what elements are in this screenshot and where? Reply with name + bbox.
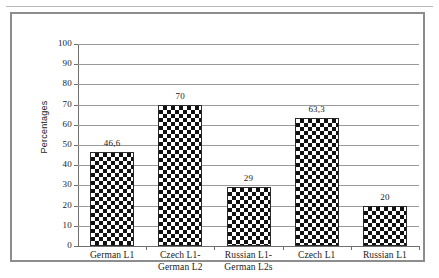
- y-axis-tick: [74, 84, 78, 85]
- y-axis-tick: [74, 125, 78, 126]
- x-axis-line: [78, 246, 420, 247]
- bar-slot: 46,6: [90, 44, 134, 246]
- bar-value-label: 70: [142, 92, 218, 101]
- bar[interactable]: [90, 152, 134, 246]
- bar-value-label: 29: [211, 174, 287, 183]
- y-axis-tick-labels: 1009080706050403020100: [48, 14, 72, 278]
- y-axis-tick: [74, 206, 78, 207]
- bar-value-label: 46,6: [74, 139, 150, 148]
- y-axis-tick: [74, 105, 78, 106]
- bar[interactable]: [158, 105, 202, 246]
- y-axis-tick: [74, 226, 78, 227]
- plot-area: 46,6702963,320: [78, 44, 419, 246]
- x-axis-category-label: Russian L1: [343, 250, 427, 262]
- y-axis-tick: [74, 246, 78, 247]
- y-axis-tick: [74, 145, 78, 146]
- y-axis-tick-label: 50: [50, 140, 72, 149]
- x-axis-tick: [419, 246, 420, 250]
- y-axis-tick-label: 0: [50, 241, 72, 250]
- bar-slot: 20: [363, 44, 407, 246]
- y-axis-tick-label: 60: [50, 120, 72, 129]
- y-axis-tick: [74, 165, 78, 166]
- bar[interactable]: [295, 118, 339, 246]
- category-label-line: German L2s: [206, 262, 290, 274]
- bar[interactable]: [363, 206, 407, 246]
- y-axis-tick-label: 100: [50, 39, 72, 48]
- page-header-rule: [6, 6, 433, 7]
- y-axis-tick-label: 10: [50, 221, 72, 230]
- y-axis-tick: [74, 44, 78, 45]
- bar-value-label: 63,3: [279, 105, 355, 114]
- y-axis-tick-label: 40: [50, 160, 72, 169]
- category-label-line: Russian L1: [343, 250, 427, 262]
- bar-slot: 70: [158, 44, 202, 246]
- y-axis-tick-label: 90: [50, 59, 72, 68]
- figure-frame: Percentages 1009080706050403020100 46,67…: [10, 12, 425, 262]
- bar-value-label: 20: [347, 193, 423, 202]
- bar-slot: 29: [227, 44, 271, 246]
- y-axis-tick-label: 70: [50, 100, 72, 109]
- y-axis-tick: [74, 185, 78, 186]
- y-axis-tick-label: 20: [50, 201, 72, 210]
- bar[interactable]: [227, 187, 271, 246]
- y-axis-tick-label: 30: [50, 180, 72, 189]
- y-axis-tick-label: 80: [50, 79, 72, 88]
- bar-slot: 63,3: [295, 44, 339, 246]
- y-axis-tick: [74, 64, 78, 65]
